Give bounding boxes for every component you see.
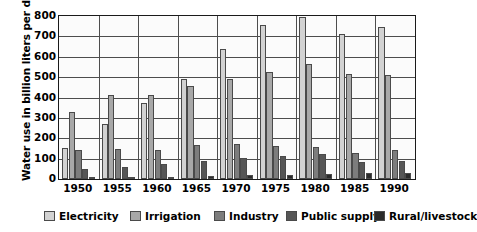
bar xyxy=(273,146,279,179)
legend-label: Electricity xyxy=(59,210,119,222)
bar xyxy=(392,150,398,179)
y-tick-label: 400 xyxy=(28,92,56,103)
legend-item[interactable]: Public supply xyxy=(286,210,380,222)
bar xyxy=(220,49,226,179)
bar-group xyxy=(59,16,99,179)
bar xyxy=(299,17,305,179)
bar xyxy=(240,158,246,179)
x-tick-label: 1965 xyxy=(177,182,217,194)
bar xyxy=(161,164,167,179)
bar xyxy=(108,95,114,179)
bar xyxy=(122,167,128,179)
y-tick-label: 300 xyxy=(28,112,56,123)
bar xyxy=(62,148,68,179)
bar xyxy=(287,175,293,179)
bar xyxy=(399,161,405,179)
legend-swatch-icon xyxy=(286,211,297,221)
y-tick-label: 0 xyxy=(28,173,56,184)
y-tick-label: 100 xyxy=(28,153,56,164)
bar-group xyxy=(217,16,257,179)
legend-swatch-icon xyxy=(214,211,225,221)
legend-item[interactable]: Rural/livestock xyxy=(374,210,477,222)
x-tick-label: 1960 xyxy=(137,182,177,194)
x-tick-label: 1990 xyxy=(374,182,414,194)
bar xyxy=(385,75,391,179)
bar xyxy=(234,144,240,179)
y-tick-label: 600 xyxy=(28,51,56,62)
bar xyxy=(128,177,134,179)
bar xyxy=(82,169,88,179)
bar xyxy=(187,86,193,179)
bar xyxy=(319,154,325,179)
bar xyxy=(141,103,147,179)
bar-group xyxy=(375,16,415,179)
bar xyxy=(359,162,365,179)
bar xyxy=(260,25,266,179)
bar xyxy=(405,173,411,179)
bar xyxy=(75,150,81,179)
bar-group xyxy=(178,16,218,179)
legend-swatch-icon xyxy=(44,211,55,221)
legend-label: Irrigation xyxy=(145,210,201,222)
x-tick-label: 1955 xyxy=(98,182,138,194)
bar-group xyxy=(99,16,139,179)
bar xyxy=(346,74,352,179)
bar xyxy=(266,72,272,179)
bar xyxy=(155,150,161,179)
bar xyxy=(181,79,187,179)
bar xyxy=(313,147,319,179)
legend-item[interactable]: Electricity xyxy=(44,210,119,222)
bar xyxy=(102,124,108,179)
x-tick-label: 1975 xyxy=(256,182,296,194)
bar-group xyxy=(138,16,178,179)
legend-item[interactable]: Irrigation xyxy=(130,210,201,222)
bar xyxy=(366,173,372,179)
y-tick-label: 700 xyxy=(28,30,56,41)
bar xyxy=(194,145,200,179)
bar xyxy=(352,153,358,179)
bar xyxy=(208,176,214,179)
bar xyxy=(168,177,174,179)
x-tick-label: 1980 xyxy=(295,182,335,194)
bar xyxy=(89,177,95,179)
bar xyxy=(247,175,253,179)
x-axis-tick-labels: 195019551960196519701975198019851990 xyxy=(58,182,416,198)
y-tick-label: 800 xyxy=(28,10,56,21)
y-axis-tick-labels: 0100200300400500600700800 xyxy=(28,10,56,186)
x-tick-label: 1985 xyxy=(335,182,375,194)
chart-legend: ElectricityIrrigationIndustryPublic supp… xyxy=(44,210,420,228)
bar xyxy=(148,95,154,179)
bar-group xyxy=(296,16,336,179)
bar-group xyxy=(257,16,297,179)
bar xyxy=(115,149,121,179)
bar xyxy=(201,161,207,179)
y-tick-label: 200 xyxy=(28,132,56,143)
legend-label: Rural/livestock xyxy=(389,210,477,222)
bar xyxy=(227,79,233,179)
legend-swatch-icon xyxy=(374,211,385,221)
legend-label: Public supply xyxy=(301,210,380,222)
bar-group xyxy=(336,16,376,179)
bar xyxy=(306,64,312,179)
bar xyxy=(339,34,345,179)
legend-label: Industry xyxy=(229,210,279,222)
x-tick-label: 1950 xyxy=(58,182,98,194)
bar xyxy=(326,174,332,179)
legend-item[interactable]: Industry xyxy=(214,210,279,222)
plot-area xyxy=(58,15,416,180)
y-tick-label: 500 xyxy=(28,71,56,82)
bar xyxy=(69,112,75,179)
x-tick-label: 1970 xyxy=(216,182,256,194)
bar xyxy=(378,27,384,179)
legend-swatch-icon xyxy=(130,211,141,221)
bar xyxy=(280,156,286,179)
